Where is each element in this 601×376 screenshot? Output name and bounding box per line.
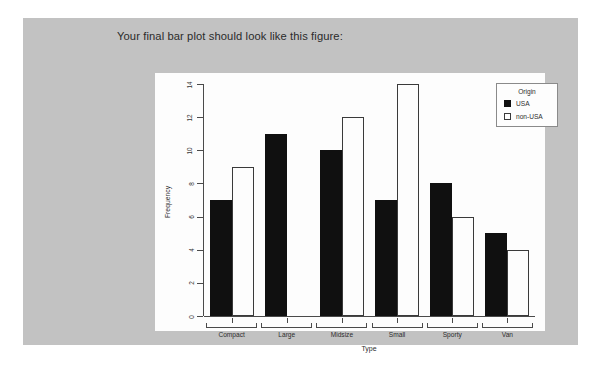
plot-area: 02468101214 Frequency CompactLargeMidsiz… [155, 73, 545, 331]
category-label-large: Large [278, 331, 295, 338]
y-axis-line [203, 84, 204, 316]
bar-van-non-usa [507, 250, 529, 316]
chart-legend: Origin USAnon-USA [496, 83, 558, 127]
bar-chart-figure: 02468101214 Frequency CompactLargeMidsiz… [155, 73, 545, 331]
bar-compact-non-usa [232, 167, 254, 316]
bar-midsize-non-usa [342, 117, 364, 316]
y-tick-label-0: 0 [189, 315, 195, 319]
bar-midsize-usa [320, 150, 342, 316]
y-tick-6: 6 [197, 217, 203, 218]
legend-label-usa: USA [516, 100, 530, 107]
bar-compact-usa [210, 200, 232, 316]
legend-entry-usa: USA [504, 100, 530, 107]
category-bracket-midsize [316, 323, 367, 328]
bar-large-usa [265, 134, 287, 316]
category-tick-midsize [342, 318, 343, 323]
x-axis-line [204, 316, 535, 317]
category-tick-compact [232, 318, 233, 323]
legend-label-non-usa: non-USA [516, 113, 543, 120]
bar-small-usa [375, 200, 397, 316]
bar-sporty-non-usa [452, 217, 474, 316]
category-bracket-van [482, 323, 533, 328]
y-tick-label-10: 10 [187, 147, 193, 154]
category-bracket-compact [206, 323, 257, 328]
y-tick-2: 2 [197, 283, 203, 284]
category-label-van: Van [502, 331, 513, 338]
y-tick-label-4: 4 [189, 248, 195, 252]
category-tick-sporty [452, 318, 453, 323]
legend-swatch-icon-non-usa [504, 113, 511, 120]
bar-van-usa [485, 233, 507, 316]
y-tick-10: 10 [197, 150, 203, 151]
category-label-small: Small [389, 331, 406, 338]
y-tick-12: 12 [197, 117, 203, 118]
category-tick-large [287, 318, 288, 323]
category-tick-van [507, 318, 508, 323]
category-label-sporty: Sporty [443, 331, 462, 338]
legend-title: Origin [497, 88, 557, 95]
category-bracket-sporty [427, 323, 478, 328]
y-tick-label-14: 14 [187, 81, 193, 88]
category-label-compact: Compact [218, 331, 244, 338]
y-tick-label-2: 2 [189, 282, 195, 286]
y-tick-0: 0 [197, 316, 203, 317]
y-tick-8: 8 [197, 183, 203, 184]
bar-small-non-usa [397, 84, 419, 316]
x-axis-title: Type [361, 345, 376, 352]
y-tick-label-6: 6 [189, 215, 195, 219]
category-bracket-small [372, 323, 423, 328]
slide-caption: Your final bar plot should look like thi… [117, 30, 343, 42]
category-bracket-large [261, 323, 312, 328]
y-tick-4: 4 [197, 250, 203, 251]
y-tick-14: 14 [197, 84, 203, 85]
bar-sporty-usa [430, 183, 452, 316]
legend-swatch-icon-usa [504, 100, 511, 107]
slide-canvas: Your final bar plot should look like thi… [23, 18, 578, 345]
y-axis-title: Frequency [164, 186, 171, 218]
legend-entry-non-usa: non-USA [504, 113, 543, 120]
y-tick-label-8: 8 [189, 182, 195, 186]
category-tick-small [397, 318, 398, 323]
y-tick-label-12: 12 [187, 114, 193, 121]
category-label-midsize: Midsize [331, 331, 353, 338]
